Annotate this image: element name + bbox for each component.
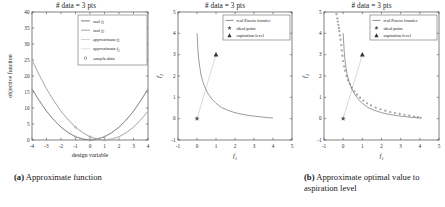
pareto-scatter-point [337, 24, 339, 26]
x-tick-label: 4 [419, 143, 422, 149]
pareto-scatter-point [375, 106, 377, 108]
panel-a-caption-text: Approximate function [26, 172, 102, 182]
pareto-scatter-point [384, 110, 386, 112]
pareto-scatter-point [339, 34, 341, 36]
y-tick-label: -1 [171, 137, 176, 143]
x-tick-label: -1 [322, 143, 327, 149]
x-tick-label: -3 [44, 143, 49, 149]
x-tick-label: 1 [361, 143, 364, 149]
figure-approximate-pareto: # data = 3 pts -4-3-2-101234051015202530… [0, 0, 445, 207]
x-tick-label: 5 [438, 143, 441, 149]
pareto-scatter-point [341, 55, 343, 57]
y-tick-label: 35 [24, 25, 30, 31]
pareto-scatter-point [338, 30, 340, 32]
x-axis-label-subscript: 1 [381, 156, 383, 161]
y-tick-label: -1 [317, 137, 322, 143]
y-tick-label: 0 [319, 115, 322, 121]
x-tick-label: 1 [215, 143, 218, 149]
panel-b: # data = 3 pts -1012345-1012345f1f2 real… [152, 0, 298, 207]
legend-label: ideal point [384, 26, 404, 31]
pareto-scatter-point [339, 39, 341, 41]
x-tick-label: 4 [147, 143, 150, 149]
pareto-scatter-point [366, 102, 368, 104]
pareto-scatter-point [379, 108, 381, 110]
x-tick-label: 0 [89, 143, 92, 149]
legend-label: real Pareto frontier [237, 18, 271, 23]
y-tick-label: 5 [319, 9, 322, 15]
y-tick-label: 4 [173, 30, 176, 36]
y-tick-label: 5 [173, 9, 176, 15]
x-tick-label: -1 [176, 143, 181, 149]
legend-label: aspiration level [384, 33, 412, 38]
panel-b-plot: -1012345-1012345f1f2 real Pareto frontie… [152, 0, 298, 170]
pareto-scatter-point [420, 117, 422, 119]
pareto-scatter-point [336, 17, 338, 19]
x-tick-label: 3 [253, 143, 256, 149]
panel-c-plot: -1012345-1012345f1f2 real Pareto frontie… [298, 0, 445, 170]
panel-a-caption-tag: (a) [14, 172, 24, 182]
x-tick-label: -1 [73, 143, 78, 149]
x-tick-label: 4 [272, 143, 275, 149]
panel-c: # data = 3 pts -1012345-1012345f1f2 real… [298, 0, 445, 207]
y-axis-label: f2 [301, 74, 310, 78]
x-tick-label: 3 [399, 143, 402, 149]
legend-label: real Pareto frontier [384, 18, 418, 23]
pareto-scatter-point [338, 27, 340, 29]
pareto-scatter-point [370, 104, 372, 106]
y-axis-label-subscript: 2 [159, 74, 164, 76]
legend-label: ideal point [237, 26, 257, 31]
y-tick-label: 30 [24, 41, 30, 47]
y-tick-label: 4 [319, 30, 322, 36]
panel-a-caption: (a) Approximate function [14, 172, 154, 183]
y-tick-label: 5 [27, 121, 30, 127]
y-axis-label: f2 [155, 74, 164, 78]
pareto-scatter-point [359, 97, 361, 99]
panel-a: # data = 3 pts -4-3-2-101234051015202530… [0, 0, 152, 207]
pareto-scatter-point [344, 70, 346, 72]
x-tick-label: 2 [380, 143, 383, 149]
pareto-scatter-point [340, 44, 342, 46]
y-tick-label: 0 [27, 137, 30, 143]
y-axis-label: objective function [7, 54, 13, 98]
y-tick-label: 15 [24, 89, 30, 95]
pareto-scatter-point [342, 60, 344, 62]
x-tick-label: 3 [132, 143, 135, 149]
pareto-scatter-point [337, 20, 339, 22]
pareto-scatter-point [394, 112, 396, 114]
pareto-scatter-point [343, 65, 345, 67]
pareto-scatter-point [362, 99, 364, 101]
x-tick-label: 1 [103, 143, 106, 149]
y-tick-label: 3 [173, 51, 176, 57]
pareto-scatter-point [408, 115, 410, 117]
y-tick-label: 25 [24, 57, 30, 63]
panel-a-plot: -4-3-2-1012340510152025303540design vari… [0, 0, 152, 170]
x-axis-label: f1 [233, 152, 237, 161]
x-axis-label: design variable [72, 152, 109, 158]
x-axis-label: f1 [380, 152, 384, 161]
x-tick-label: -4 [30, 143, 35, 149]
pareto-scatter-point [403, 114, 405, 116]
x-axis-label-subscript: 1 [235, 156, 237, 161]
y-tick-label: 1 [319, 94, 322, 100]
y-tick-label: 40 [24, 9, 30, 15]
y-axis-label-text: f2 [155, 74, 164, 78]
y-tick-label: 2 [319, 73, 322, 79]
y-tick-label: 1 [173, 94, 176, 100]
y-tick-label: 20 [24, 73, 30, 79]
pareto-scatter-point [335, 13, 337, 15]
y-tick-label: 0 [173, 115, 176, 121]
pareto-scatter-point [341, 49, 343, 51]
pareto-scatter-point [399, 113, 401, 115]
y-tick-label: 3 [319, 51, 322, 57]
y-axis-label-subscript: 2 [305, 74, 310, 76]
y-tick-label: 2 [173, 73, 176, 79]
x-tick-label: -2 [59, 143, 64, 149]
x-tick-label: 2 [118, 143, 121, 149]
x-tick-label: 0 [342, 143, 345, 149]
pareto-scatter-point [389, 111, 391, 113]
y-tick-label: 10 [24, 105, 30, 111]
legend-label: sample data [93, 56, 116, 61]
x-tick-label: 0 [196, 143, 199, 149]
legend-label: aspiration level [237, 33, 265, 38]
x-tick-label: 2 [234, 143, 237, 149]
